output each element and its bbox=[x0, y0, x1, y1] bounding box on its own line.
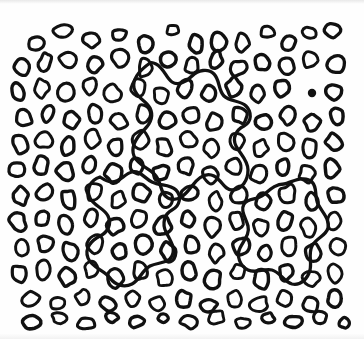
stimulus-figure bbox=[0, 0, 364, 339]
texture-canvas bbox=[0, 0, 364, 339]
filled-dot-0 bbox=[308, 89, 316, 97]
